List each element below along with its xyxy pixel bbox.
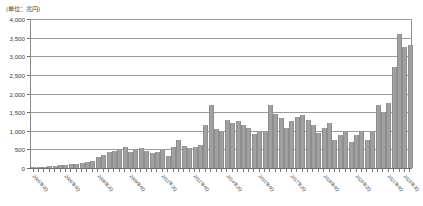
bar xyxy=(370,132,375,169)
y-tick-mark xyxy=(27,168,30,169)
x-tick-mark xyxy=(248,169,249,172)
x-tick-mark xyxy=(43,169,44,172)
x-tick-mark xyxy=(124,169,125,172)
bar xyxy=(300,115,305,168)
bar xyxy=(343,132,348,168)
y-tick-label: 3,000 xyxy=(10,53,25,60)
bar xyxy=(53,166,58,168)
bar xyxy=(85,162,90,168)
bar xyxy=(311,125,316,168)
x-tick-mark xyxy=(307,169,308,172)
bar xyxy=(322,128,327,168)
bar xyxy=(47,166,52,168)
x-tick-mark xyxy=(60,169,61,172)
bar xyxy=(219,132,224,169)
x-tick-mark xyxy=(216,169,217,172)
bar xyxy=(273,114,278,168)
x-tick-mark xyxy=(54,169,55,172)
x-tick-mark xyxy=(86,169,87,172)
x-tick-mark xyxy=(280,169,281,172)
x-tick-mark xyxy=(366,169,367,172)
y-tick-label: 1,500 xyxy=(10,109,25,116)
x-tick-mark xyxy=(237,169,238,172)
x-tick-mark xyxy=(221,169,222,172)
bar xyxy=(397,34,402,168)
x-tick-mark xyxy=(119,169,120,172)
x-tick-mark xyxy=(49,169,50,172)
bar xyxy=(365,140,370,168)
bar xyxy=(408,45,413,168)
bar xyxy=(381,112,386,168)
bar xyxy=(182,146,187,168)
bar xyxy=(63,165,68,168)
x-tick-mark xyxy=(382,169,383,172)
bar xyxy=(37,167,42,168)
bar xyxy=(246,128,251,168)
bar xyxy=(257,131,262,168)
bar xyxy=(209,105,214,168)
x-tick-label: 2020年2Q xyxy=(354,173,372,192)
y-tick-label: 4,000 xyxy=(10,16,25,23)
bar xyxy=(252,134,257,168)
y-tick-label: 1,000 xyxy=(10,127,25,134)
x-tick-mark xyxy=(329,169,330,172)
x-tick-mark xyxy=(92,169,93,172)
bar xyxy=(187,148,192,168)
x-tick-mark xyxy=(334,169,335,172)
x-tick-mark xyxy=(199,169,200,172)
x-tick-mark xyxy=(404,169,405,172)
x-tick-mark xyxy=(393,169,394,172)
bar xyxy=(101,155,106,168)
bars-layer xyxy=(30,19,412,168)
bar xyxy=(241,125,246,168)
x-tick-mark xyxy=(156,169,157,172)
bar xyxy=(155,152,160,168)
x-tick-mark xyxy=(409,169,410,172)
x-tick-mark xyxy=(226,169,227,172)
bar xyxy=(42,167,47,168)
x-tick-mark xyxy=(269,169,270,172)
y-tick-label: 2,500 xyxy=(10,71,25,78)
x-tick-label: 2023年3Q xyxy=(403,173,421,192)
bar xyxy=(133,150,138,168)
bar xyxy=(144,151,149,169)
x-tick-mark xyxy=(286,169,287,172)
bar xyxy=(198,145,203,168)
bar xyxy=(354,135,359,168)
x-tick-mark xyxy=(130,169,131,172)
x-tick-mark xyxy=(296,169,297,172)
x-tick-mark xyxy=(151,169,152,172)
x-tick-mark xyxy=(81,169,82,172)
bar xyxy=(139,148,144,168)
x-tick-mark xyxy=(108,169,109,172)
bar xyxy=(386,103,391,168)
x-tick-mark xyxy=(243,169,244,172)
bar xyxy=(225,120,230,168)
bar xyxy=(193,147,198,168)
x-tick-mark xyxy=(356,169,357,172)
x-tick-mark xyxy=(291,169,292,172)
bar xyxy=(392,67,397,168)
x-tick-mark xyxy=(377,169,378,172)
bar xyxy=(107,152,112,168)
x-tick-mark xyxy=(178,169,179,172)
x-tick-mark xyxy=(318,169,319,172)
x-tick-mark xyxy=(259,169,260,172)
x-tick-mark xyxy=(173,169,174,172)
unit-caption: (単位：兆円) xyxy=(6,4,40,13)
bar xyxy=(327,123,332,168)
x-tick-label: 2018年4Q xyxy=(322,173,340,192)
x-tick-mark xyxy=(65,169,66,172)
x-tick-label: 2012年4Q xyxy=(193,173,211,192)
bar xyxy=(96,157,101,168)
bar xyxy=(268,105,273,168)
x-tick-mark xyxy=(253,169,254,172)
x-tick-label: 2009年4Q xyxy=(128,173,146,192)
bar xyxy=(316,133,321,168)
x-tick-mark xyxy=(399,169,400,172)
bar xyxy=(295,117,300,168)
x-tick-mark xyxy=(140,169,141,172)
x-tick-mark xyxy=(97,169,98,172)
x-tick-label: 2011年2Q xyxy=(161,173,179,192)
bar xyxy=(90,161,95,168)
